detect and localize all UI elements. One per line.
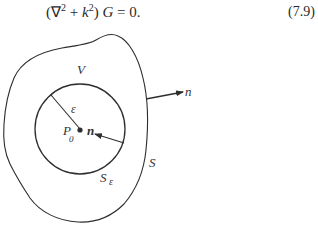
inner-surface-subscript: ε (109, 176, 113, 187)
inner-surface-label: S (100, 170, 107, 185)
inner-normal-label: n (87, 123, 94, 138)
outer-surface-boundary (4, 35, 148, 223)
outer-normal-arrow (146, 92, 183, 99)
center-point-dot (77, 127, 82, 132)
volume-label: V (77, 62, 87, 77)
outer-surface-label: S (149, 155, 156, 170)
outer-normal-label: n (185, 84, 192, 99)
region-diagram: V ε P 0 n n S S ε (0, 0, 318, 229)
inner-normal-arrow (95, 134, 124, 143)
point-p-subscript: 0 (69, 134, 74, 144)
radius-epsilon-label: ε (71, 102, 76, 116)
